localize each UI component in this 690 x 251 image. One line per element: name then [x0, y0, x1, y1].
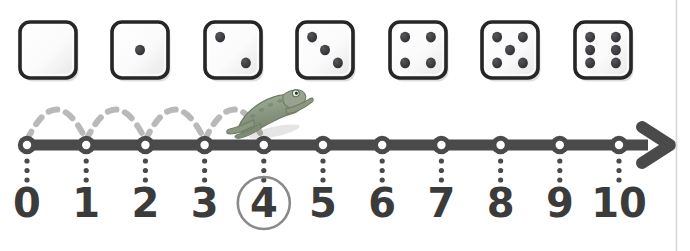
tick-label-3: 3: [191, 180, 219, 226]
number-line: [22, 127, 670, 163]
stem-dot: [380, 158, 385, 163]
tick-dot-stem: [143, 158, 148, 182]
tick-marker-9[interactable]: [551, 136, 569, 154]
tick-dot-stem: [24, 158, 29, 182]
die-pip: [426, 32, 436, 43]
die-pip: [400, 58, 410, 69]
die-blank[interactable]: [20, 22, 79, 82]
frog-figure: [221, 86, 319, 146]
tick-marker-8[interactable]: [491, 136, 509, 154]
tick-dot-stem: [84, 158, 89, 182]
tick-inner: [378, 141, 386, 149]
die-pip: [518, 32, 528, 43]
stem-dot: [24, 158, 29, 163]
die-pip: [518, 58, 528, 69]
tick-inner: [200, 141, 208, 149]
die-pip: [135, 45, 145, 56]
stem-dot: [84, 168, 89, 173]
tick-dot-stem: [380, 158, 385, 182]
stem-dot: [498, 158, 503, 163]
tick-label-6: 6: [368, 180, 396, 226]
die-one[interactable]: [112, 22, 171, 82]
die-four[interactable]: [390, 22, 449, 82]
tick-marker-2[interactable]: [136, 136, 154, 154]
stem-dot: [143, 168, 148, 173]
tick-inner: [82, 141, 90, 149]
jump-arc: [86, 110, 145, 141]
tick-dot-stem: [320, 158, 325, 182]
stem-dot: [616, 168, 621, 173]
die-face: [20, 22, 76, 78]
die-pip: [611, 32, 621, 43]
tick-inner: [319, 141, 327, 149]
die-six[interactable]: [575, 22, 634, 82]
die-two[interactable]: [205, 22, 264, 82]
tick-marker-1[interactable]: [77, 136, 95, 154]
die-pip: [585, 32, 595, 43]
tick-dot-stem: [202, 158, 207, 182]
die-pip: [333, 58, 343, 69]
tick-label-9: 9: [546, 180, 574, 226]
tick-marker-7[interactable]: [432, 136, 450, 154]
die-pip: [215, 32, 225, 43]
stem-dot: [439, 168, 444, 173]
die-pip: [585, 58, 595, 69]
die-pip: [426, 58, 436, 69]
die-three[interactable]: [297, 22, 356, 82]
stem-dot: [616, 158, 621, 163]
worksheet-figure: 012345678910: [0, 0, 690, 251]
tick-dot-stem: [616, 158, 621, 182]
dice-strip: [20, 22, 634, 82]
stem-dot: [498, 168, 503, 173]
tick-dot-stem: [261, 158, 266, 182]
tick-label-1: 1: [72, 180, 100, 226]
stem-dot: [202, 168, 207, 173]
tick-marker-0[interactable]: [18, 136, 36, 154]
stem-dot: [261, 168, 266, 173]
die-pip: [492, 58, 502, 69]
die-face: [575, 22, 631, 78]
tick-label-8: 8: [487, 180, 515, 226]
tick-inner: [615, 141, 623, 149]
tick-marker-3[interactable]: [195, 136, 213, 154]
tick-inner: [141, 141, 149, 149]
die-pip: [611, 45, 621, 56]
die-face: [390, 22, 446, 78]
stem-dot: [143, 158, 148, 163]
stem-dot: [202, 158, 207, 163]
tick-inner: [496, 141, 504, 149]
tick-marker-6[interactable]: [373, 136, 391, 154]
stem-dot: [380, 168, 385, 173]
stem-dot: [557, 168, 562, 173]
die-five[interactable]: [482, 22, 541, 82]
stem-dot: [84, 158, 89, 163]
tick-inner: [260, 141, 268, 149]
stem-dot: [261, 158, 266, 163]
stem-dot: [320, 158, 325, 163]
jump-arc: [27, 110, 86, 141]
die-pip: [400, 32, 410, 43]
stem-dot: [439, 158, 444, 163]
die-pip: [505, 45, 515, 56]
die-pip: [492, 32, 502, 43]
tick-label-2: 2: [131, 180, 159, 226]
tick-marker-10[interactable]: [610, 136, 628, 154]
die-pip: [241, 58, 251, 69]
tick-dot-stem: [498, 158, 503, 182]
stem-dot: [557, 158, 562, 163]
tick-marker-5[interactable]: [314, 136, 332, 154]
die-pip: [320, 45, 330, 56]
die-pip: [585, 45, 595, 56]
tick-inner: [437, 141, 445, 149]
stem-dot: [320, 168, 325, 173]
figure-canvas: 012345678910: [0, 0, 690, 251]
stem-dot: [24, 168, 29, 173]
tick-label-4: 4: [250, 180, 278, 226]
tick-label-10: 10: [591, 180, 647, 226]
jump-arc: [145, 110, 204, 141]
die-pip: [611, 58, 621, 69]
frog-jump-arcs: [27, 110, 264, 141]
tick-dot-stem: [439, 158, 444, 182]
tick-label-0: 0: [13, 180, 41, 226]
tick-dot-stem: [557, 158, 562, 182]
